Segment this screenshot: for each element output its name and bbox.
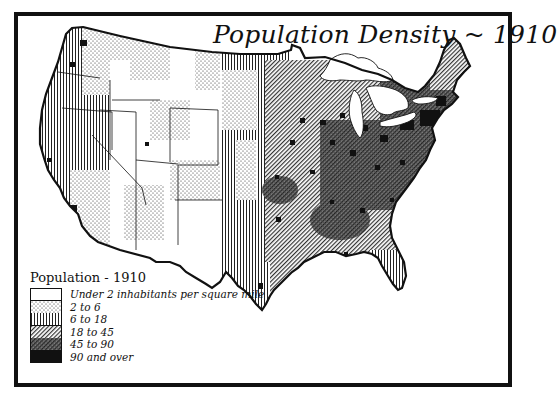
legend-label: 45 to 90 (70, 338, 114, 350)
legend-item-2-to-6: 2 to 6 (30, 301, 264, 314)
legend-item-18-to-45: 18 to 45 (30, 326, 264, 339)
legend: Population - 1910 Under 2 inhabitants pe… (30, 270, 264, 363)
legend-label: Under 2 inhabitants per square mile (70, 288, 264, 300)
legend-label: 90 and over (70, 351, 133, 363)
swatch-diagonal-hatch (30, 326, 62, 339)
legend-item-6-to-18: 6 to 18 (30, 313, 264, 326)
swatch-dots (30, 301, 62, 314)
legend-title: Population - 1910 (30, 270, 264, 285)
swatch-dense-crosshatch (30, 338, 62, 351)
swatch-vertical-lines (30, 313, 62, 326)
legend-item-under-2: Under 2 inhabitants per square mile (30, 288, 264, 301)
legend-label: 2 to 6 (70, 301, 101, 313)
swatch-solid-black (30, 351, 62, 364)
legend-label: 6 to 18 (70, 313, 107, 325)
map-title: Population Density ~ 1910 (213, 20, 557, 49)
legend-item-90-and-over: 90 and over (30, 351, 264, 364)
legend-label: 18 to 45 (70, 326, 114, 338)
swatch-white (30, 288, 62, 301)
legend-item-45-to-90: 45 to 90 (30, 338, 264, 351)
